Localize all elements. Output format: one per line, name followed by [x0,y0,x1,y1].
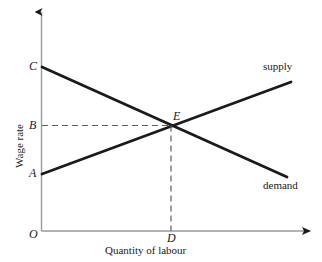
supply-demand-diagram: Wage rate Quantity of labour O C B A E D… [0,0,322,262]
point-label-a: A [29,167,36,179]
point-label-b: B [29,119,36,131]
demand-curve-label: demand [263,180,298,191]
point-label-origin: O [29,228,38,240]
point-label-c: C [29,60,37,72]
diagram-canvas [0,0,322,262]
x-axis-title: Quantity of labour [105,245,186,256]
point-label-e: E [173,110,180,122]
point-label-d: D [167,232,176,244]
supply-curve-label: supply [263,61,292,72]
y-axis-title: Wage rate [14,124,25,168]
supply-curve [42,82,291,174]
